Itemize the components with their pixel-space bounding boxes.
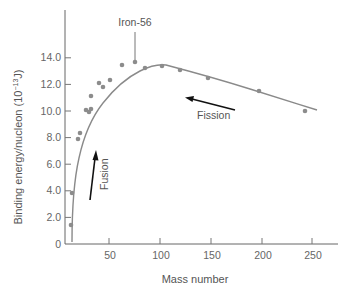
y-tick-label: 2.0	[46, 211, 61, 223]
iron-56-label: Iron-56	[118, 16, 151, 28]
y-tick-labels: 0 2.0 4.0 6.0 8.0 10.0 12.0 14.0	[41, 51, 62, 249]
x-tick-label: 50	[104, 249, 116, 261]
y-tick-label: 6.0	[46, 158, 61, 170]
y-tick-label: 0	[55, 238, 61, 250]
x-tick-labels: 50 100 150 200 250	[104, 249, 322, 261]
fission-label: Fission	[197, 109, 230, 121]
data-points	[69, 60, 308, 228]
trend-curve	[72, 65, 317, 242]
y-tick-label: 8.0	[46, 131, 61, 143]
y-axis-title: Binding energy/nucleon (10−13J)	[12, 70, 24, 225]
x-tick-label: 200	[254, 249, 272, 261]
x-axis-title: Mass number	[162, 273, 229, 285]
fission-arrow-head-icon	[185, 96, 194, 102]
y-tick-label: 4.0	[46, 184, 61, 196]
y-tick-label: 14.0	[41, 51, 62, 63]
x-tick-label: 150	[203, 249, 221, 261]
fusion-label: Fusion	[98, 158, 110, 190]
x-tick-label: 250	[304, 249, 322, 261]
binding-energy-chart: 0 2.0 4.0 6.0 8.0 10.0 12.0 14.0 50 100 …	[0, 0, 348, 293]
y-tick-label: 12.0	[41, 78, 62, 90]
x-ticks	[109, 238, 312, 244]
x-tick-label: 100	[152, 249, 170, 261]
fusion-arrow	[90, 158, 95, 200]
y-tick-label: 10.0	[41, 105, 62, 117]
